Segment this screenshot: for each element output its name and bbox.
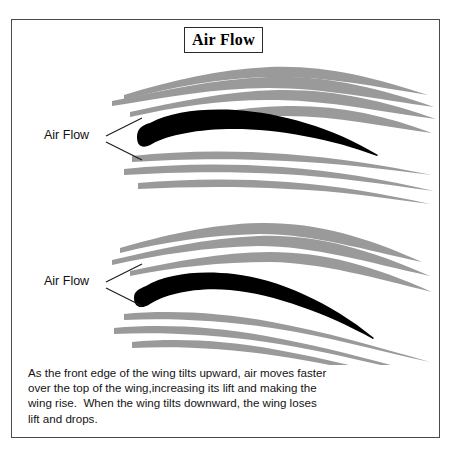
callout-air-flow-top: Air Flow [30, 110, 162, 166]
figure-title-box: Air Flow [184, 27, 263, 53]
caption-line-1: As the front edge of the wing tilts upwa… [28, 365, 328, 380]
air-flow-figure: Air Flow [0, 0, 462, 454]
callout-leader-lines-top [30, 110, 162, 166]
streamlines-below-lower-wing [114, 312, 436, 365]
caption-line-2: over the top of the wing,increasing its … [28, 380, 328, 395]
streamlines-below-upper-wing [124, 152, 434, 204]
figure-caption: As the front edge of the wing tilts upwa… [28, 365, 328, 426]
page-title: Air Flow [192, 31, 255, 49]
caption-line-4: lift and drops. [28, 411, 328, 426]
caption-line-3: wing rise. When the wing tilts downward,… [28, 395, 328, 410]
callout-leader-lines-bottom [30, 256, 162, 312]
callout-air-flow-bottom: Air Flow [30, 256, 162, 312]
